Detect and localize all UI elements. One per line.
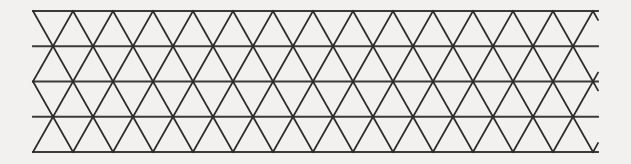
triangular-lattice-figure: [0, 0, 631, 164]
